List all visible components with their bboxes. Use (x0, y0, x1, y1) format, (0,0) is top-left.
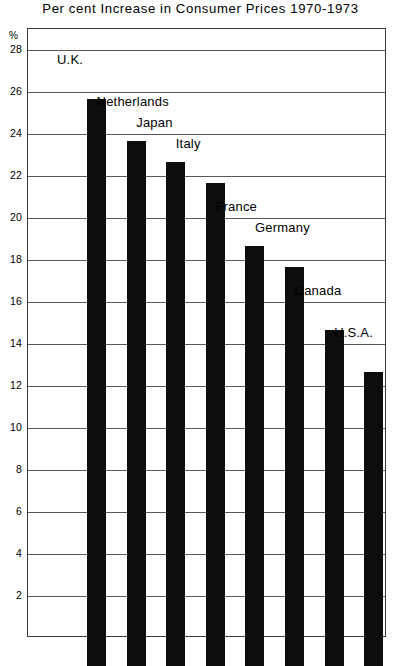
bar-label: Japan (136, 115, 172, 130)
bar-label: France (215, 199, 257, 214)
bar-label: Italy (176, 136, 201, 151)
bar-label: U.S.A. (334, 325, 373, 340)
bar-label: U.K. (57, 52, 83, 67)
bar-label: Canada (295, 283, 342, 298)
bar-label: Germany (255, 220, 310, 235)
bar-label: Netherlands (97, 94, 169, 109)
